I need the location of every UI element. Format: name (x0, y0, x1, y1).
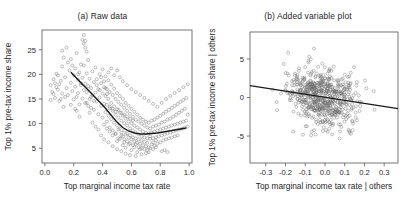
x-tick-label: 0.2 (359, 168, 370, 177)
x-axis-title: Top marginal income tax rate (64, 181, 171, 191)
y-tick-label: 15 (28, 95, 36, 104)
x-tick-label: 0.0 (320, 168, 331, 177)
y-tick-label: 25 (28, 46, 36, 55)
raw-data-plot: 0.00.20.40.60.81.0510152025Top marginal … (0, 0, 205, 211)
x-tick-label: 0.4 (97, 168, 108, 177)
x-tick-label: -0.3 (259, 168, 272, 177)
figure-panel-container: (a) Raw data 0.00.20.40.60.81.0510152025… (0, 0, 411, 211)
x-tick-label: 0.3 (379, 168, 390, 177)
y-tick-label: -5 (237, 132, 244, 141)
y-axis-title: Top 1% pre-tax income share (3, 42, 13, 150)
y-tick-label: 5 (240, 55, 244, 64)
y-tick-label: 20 (28, 70, 36, 79)
panel-added-variable-plot: (b) Added variable plot -0.3-0.2-0.10.00… (205, 0, 411, 211)
x-tick-label: 1.0 (184, 168, 195, 177)
y-tick-label: 5 (32, 144, 36, 153)
added-variable-plot: -0.3-0.2-0.10.00.10.20.3-505Top marginal… (205, 0, 411, 211)
y-tick-label: 10 (28, 119, 36, 128)
x-tick-label: -0.2 (279, 168, 292, 177)
x-tick-label: 0.6 (126, 168, 137, 177)
x-tick-label: 0.1 (339, 168, 350, 177)
x-tick-label: 0.2 (68, 168, 79, 177)
x-axis-title: Top marginal income tax rate | others (256, 181, 392, 191)
x-tick-label: -0.1 (299, 168, 312, 177)
y-axis-title: Top 1% pre-tax income share | others (207, 29, 217, 167)
panel-raw-data: (a) Raw data 0.00.20.40.60.81.0510152025… (0, 0, 205, 211)
x-tick-label: 0.0 (40, 168, 51, 177)
y-tick-label: 0 (240, 93, 244, 102)
x-tick-label: 0.8 (155, 168, 166, 177)
